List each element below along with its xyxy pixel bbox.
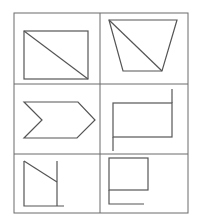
left-extension-and-base-line [109, 190, 144, 204]
chevron-outline [24, 102, 95, 138]
cell-1-2-trapezoid-with-diagonal [109, 20, 177, 71]
rectangle-outline [113, 103, 172, 137]
cell-1-1-rectangle-with-diagonal [24, 31, 88, 79]
trapezoid-outline [109, 20, 177, 71]
rectangle-outline [109, 158, 148, 190]
cell-2-2-rectangle-with-extensions [113, 89, 172, 151]
diagonal-line [24, 31, 88, 79]
figure-grid-diagram [0, 0, 199, 217]
slanted-top-line [24, 161, 57, 182]
left-and-base-lines [24, 161, 64, 206]
cell-3-1-slanted-figure [24, 161, 64, 206]
cell-3-2-rectangle-with-base [109, 158, 148, 204]
cell-2-1-chevron [24, 102, 95, 138]
diagonal-line [109, 20, 162, 71]
